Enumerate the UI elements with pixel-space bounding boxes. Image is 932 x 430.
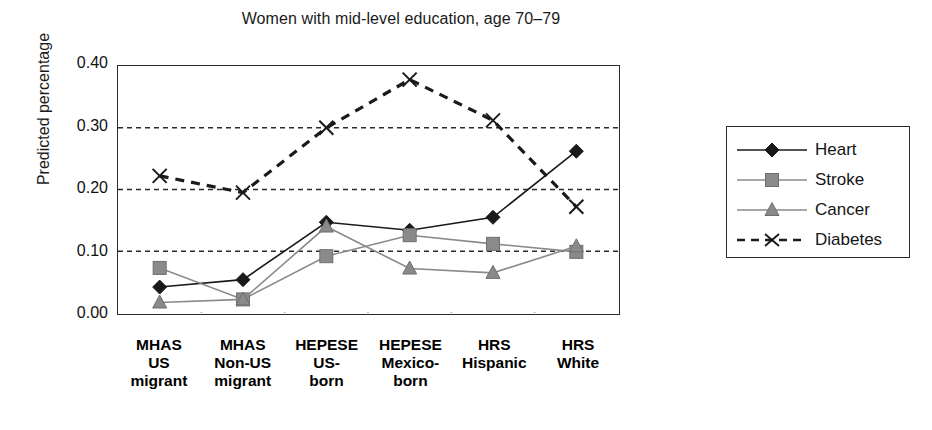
legend-label: Cancer xyxy=(815,200,870,220)
x-axis-category-label-line: migrant xyxy=(117,372,201,390)
legend-label: Diabetes xyxy=(815,230,882,250)
legend-marker-triangle xyxy=(765,202,779,215)
x-axis-category-label-line: US- xyxy=(285,354,369,372)
legend-swatch-diamond-icon xyxy=(735,139,809,161)
legend-item-cancer[interactable]: Cancer xyxy=(735,193,903,226)
x-axis-category-label-line: migrant xyxy=(201,372,285,390)
x-axis-category-label-line: HRS xyxy=(536,336,620,354)
marker-triangle xyxy=(403,261,417,274)
series-line-stroke xyxy=(160,235,577,299)
x-axis-category-label-line: Mexico- xyxy=(369,354,453,372)
marker-x xyxy=(486,113,500,127)
x-axis-category-label-line: HRS xyxy=(452,336,536,354)
x-axis-category-label-line: HEPESE xyxy=(369,336,453,354)
marker-square xyxy=(153,261,166,274)
chart-title: Women with mid-level education, age 70–7… xyxy=(0,10,932,28)
marker-x xyxy=(569,200,583,214)
x-axis-category-label: MHASNon-USmigrant xyxy=(201,336,285,390)
x-axis-category-label-line: White xyxy=(536,354,620,372)
x-axis-category-label: HEPESEMexico-born xyxy=(369,336,453,390)
x-axis-category-label-line: HEPESE xyxy=(285,336,369,354)
y-axis-tick-label: 0.10 xyxy=(48,242,108,260)
x-axis-category-label-line: US xyxy=(117,354,201,372)
x-axis-category-label-line: MHAS xyxy=(117,336,201,354)
marker-x xyxy=(403,73,417,87)
x-axis-category-label-line: Non-US xyxy=(201,354,285,372)
plot-area xyxy=(117,65,620,315)
marker-triangle xyxy=(153,295,167,308)
x-axis-category-label: HRSHispanic xyxy=(452,336,536,372)
marker-square xyxy=(403,229,416,242)
legend-swatch-x-icon xyxy=(735,229,809,251)
x-axis-category-label: HRSWhite xyxy=(536,336,620,372)
marker-square xyxy=(320,250,333,263)
x-axis-category-label-line: born xyxy=(369,372,453,390)
chart-legend: HeartStrokeCancerDiabetes xyxy=(726,126,910,258)
y-axis-tick-label: 0.00 xyxy=(48,304,108,322)
legend-label: Stroke xyxy=(815,170,864,190)
marker-square xyxy=(487,237,500,250)
y-axis-tick-label: 0.30 xyxy=(48,117,108,135)
chart-figure: Women with mid-level education, age 70–7… xyxy=(0,0,932,430)
legend-label: Heart xyxy=(815,140,857,160)
series-line-diabetes xyxy=(160,80,577,207)
legend-item-heart[interactable]: Heart xyxy=(735,133,903,166)
legend-swatch-triangle-icon xyxy=(735,199,809,221)
x-axis-category-label: HEPESEUS-born xyxy=(285,336,369,390)
y-axis-tick-label: 0.20 xyxy=(48,179,108,197)
marker-x xyxy=(319,121,333,135)
legend-swatch-square-icon xyxy=(735,169,809,191)
y-axis-tick-label: 0.40 xyxy=(48,54,108,72)
legend-marker-square xyxy=(766,173,779,186)
x-axis-category-label: MHASUSmigrant xyxy=(117,336,201,390)
legend-item-stroke[interactable]: Stroke xyxy=(735,163,903,196)
legend-marker-diamond xyxy=(765,143,779,157)
x-axis-category-label-line: Hispanic xyxy=(452,354,536,372)
x-axis-category-label-line: MHAS xyxy=(201,336,285,354)
x-axis-category-label-line: born xyxy=(285,372,369,390)
legend-item-diabetes[interactable]: Diabetes xyxy=(735,223,903,256)
plot-svg xyxy=(118,66,618,313)
marker-diamond xyxy=(236,273,250,287)
marker-diamond xyxy=(153,280,167,294)
